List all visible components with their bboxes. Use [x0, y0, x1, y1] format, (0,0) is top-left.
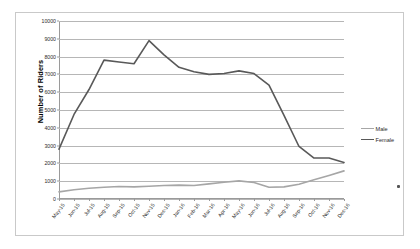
legend-swatch-female [361, 139, 374, 140]
x-tick-label: Jan-16 [171, 202, 185, 218]
x-tick-mark [134, 199, 135, 201]
x-tick-mark [254, 199, 255, 201]
x-tick-label: Dec-15 [156, 202, 171, 219]
series-line-female [59, 41, 344, 163]
legend-item-male[interactable]: Male [361, 123, 394, 134]
plot-area: 0100020003000400050006000700080009000100… [59, 21, 344, 199]
x-tick-mark [164, 199, 165, 201]
legend-swatch-male [361, 128, 374, 129]
x-tick-label: Jun-15 [66, 202, 80, 218]
chart-container: Number of Riders 01000200030004000500060… [15, 12, 404, 236]
y-axis-title: Number of Riders [36, 32, 45, 152]
x-tick-mark [59, 199, 60, 201]
x-tick-mark [119, 199, 120, 201]
y-tick-label: 1000 [44, 178, 56, 184]
gridline [59, 199, 344, 200]
series-line-male [59, 171, 344, 192]
x-tick-mark [329, 199, 330, 201]
legend-label: Female [376, 137, 395, 143]
x-tick-mark [284, 199, 285, 201]
y-tick-label: 7000 [44, 71, 56, 77]
y-tick-label: 10000 [42, 18, 56, 24]
y-tick-label: 8000 [44, 54, 56, 60]
x-tick-mark [239, 199, 240, 201]
series-layer [59, 21, 344, 199]
stray-mark [397, 185, 400, 188]
x-tick-label: Jun-16 [246, 202, 260, 218]
x-tick-label: Sep-16 [291, 202, 306, 219]
x-tick-label: Aug-15 [96, 202, 111, 219]
x-tick-mark [269, 199, 270, 201]
x-tick-mark [209, 199, 210, 201]
x-tick-label: Mar-16 [201, 202, 216, 219]
y-tick-label: 3000 [44, 143, 56, 149]
x-tick-label: Nov-15 [141, 202, 156, 219]
x-tick-mark [179, 199, 180, 201]
x-tick-mark [344, 199, 345, 201]
x-tick-label: Oct-15 [127, 202, 141, 218]
x-tick-mark [89, 199, 90, 201]
y-tick-label: 4000 [44, 125, 56, 131]
x-tick-mark [299, 199, 300, 201]
y-tick-label: 2000 [44, 160, 56, 166]
x-tick-label: Feb-16 [186, 202, 201, 219]
x-tick-label: Sep-15 [111, 202, 126, 219]
y-tick-label: 9000 [44, 36, 56, 42]
x-tick-mark [194, 199, 195, 201]
y-tick-label: 6000 [44, 89, 56, 95]
x-tick-label: May-16 [231, 202, 246, 219]
x-tick-label: Jul-15 [82, 202, 95, 217]
x-tick-label: Jul-16 [262, 202, 275, 217]
y-tick-label: 0 [53, 196, 56, 202]
x-tick-label: May-15 [51, 202, 66, 219]
y-tick-label: 5000 [44, 107, 56, 113]
x-tick-label: Oct-16 [307, 202, 321, 218]
x-tick-label: Aug-16 [276, 202, 291, 219]
chart-plot-wrapper: Number of Riders 01000200030004000500060… [16, 13, 405, 237]
x-tick-label: Apr-16 [217, 202, 231, 218]
x-tick-mark [314, 199, 315, 201]
x-tick-mark [74, 199, 75, 201]
x-tick-label: Nov-16 [321, 202, 336, 219]
x-tick-mark [149, 199, 150, 201]
legend-item-female[interactable]: Female [361, 134, 394, 145]
x-tick-label: Dec-16 [336, 202, 351, 219]
x-tick-mark [224, 199, 225, 201]
legend-label: Male [376, 126, 388, 132]
x-tick-mark [104, 199, 105, 201]
chart-legend: MaleFemale [361, 123, 394, 145]
